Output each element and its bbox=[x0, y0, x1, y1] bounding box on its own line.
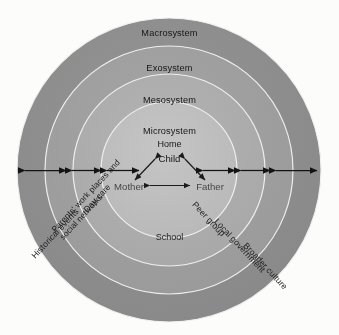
diagram-canvas bbox=[0, 0, 339, 335]
ecological-systems-diagram: Macrosystem Exosystem Mesosystem Microsy… bbox=[0, 0, 339, 335]
